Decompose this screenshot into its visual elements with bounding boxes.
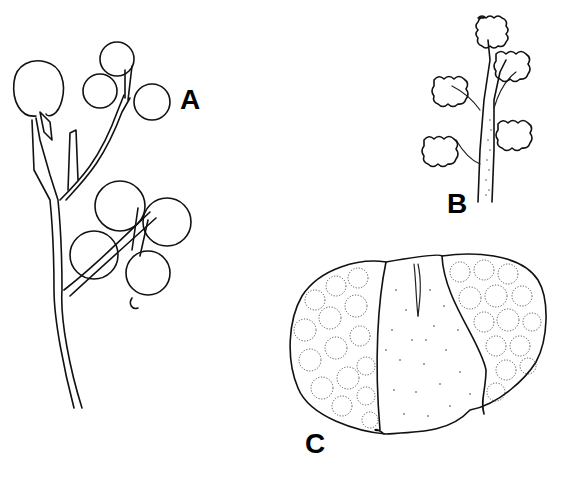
figure-drawing	[0, 0, 561, 479]
panel-label-a: A	[180, 86, 200, 114]
panel-label-b: B	[447, 190, 467, 218]
botanical-figure: A B C	[0, 0, 561, 479]
panel-c-drawing	[290, 254, 546, 434]
panel-label-c: C	[305, 430, 325, 458]
panel-b-drawing	[422, 16, 532, 202]
panel-a-drawing	[14, 42, 191, 408]
